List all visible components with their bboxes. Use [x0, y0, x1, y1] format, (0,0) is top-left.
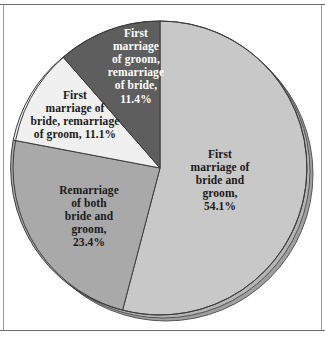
chart-plot-area: First marriage of bride and groom, 54.1%…: [0, 6, 325, 326]
pie-chart-figure: First marriage of bride and groom, 54.1%…: [0, 0, 325, 340]
pie-svg: [0, 6, 325, 326]
bottom-rule: [0, 330, 325, 331]
top-rule: [0, 4, 325, 5]
